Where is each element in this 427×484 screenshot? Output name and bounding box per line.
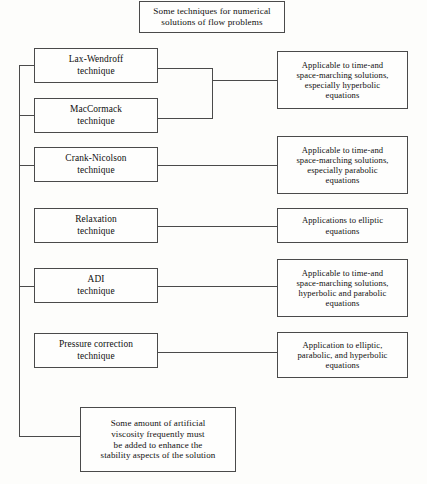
connector-maccormack-out [157,118,213,119]
description-label-elliptic-parabolic-hyperbolic: Application to elliptic, parabolic, and … [294,340,390,370]
description-label-hyperbolic: Applicable to time-and space-marching so… [293,60,391,101]
technique-box-maccormack: MacCormack technique [34,98,158,133]
description-label-parabolic: Applicable to time-and space-marching so… [293,145,391,186]
connector-relaxation-to-desc-3 [157,226,278,227]
description-box-hyperbolic: Applicable to time-and space-marching so… [277,51,408,109]
flow-chart-canvas: Some techniques for numerical solutions … [0,0,427,484]
technique-label-maccormack: MacCormack technique [67,104,125,126]
technique-label-crank-nicolson: Crank-Nicolson technique [62,153,129,175]
connector-merge-vertical [212,68,213,119]
trunk-stub-crank-nicolson [19,165,35,166]
technique-box-crank-nicolson: Crank-Nicolson technique [34,147,158,182]
connector-merge-to-desc-1 [212,80,278,81]
connector-crank-nicolson-to-desc-2 [157,165,278,166]
connector-pressure-correction-to-desc-5 [157,352,278,353]
trunk-vertical-line [19,65,20,437]
technique-box-relaxation: Relaxation technique [34,208,158,243]
trunk-stub-maccormack [19,115,35,116]
note-box-label: Some amount of artificial viscosity freq… [98,418,219,460]
description-box-hyperbolic-parabolic: Applicable to time-and space-marching so… [277,259,408,317]
title-box-label: Some techniques for numerical solutions … [150,6,273,28]
technique-label-pressure-correction: Pressure correction technique [56,339,136,361]
description-box-elliptic-parabolic-hyperbolic: Application to elliptic, parabolic, and … [277,332,408,378]
connector-lax-wendroff-out [157,68,213,69]
technique-box-adi: ADI technique [34,268,158,303]
description-box-elliptic: Applications to elliptic equations [277,208,408,243]
description-box-parabolic: Applicable to time-and space-marching so… [277,136,408,194]
trunk-stub-adi [19,286,35,287]
description-label-elliptic: Applications to elliptic equations [299,215,386,235]
technique-label-lax-wendroff: Lax-Wendroff technique [66,54,126,76]
note-box-artificial-viscosity: Some amount of artificial viscosity freq… [80,407,236,472]
technique-label-adi: ADI technique [74,274,117,296]
description-label-hyperbolic-parabolic: Applicable to time-and space-marching so… [293,268,391,309]
title-box: Some techniques for numerical solutions … [139,1,285,33]
technique-box-pressure-correction: Pressure correction technique [34,333,158,368]
trunk-stub-lax-wendroff [19,65,35,66]
trunk-stub-note-box [19,436,81,437]
technique-box-lax-wendroff: Lax-Wendroff technique [34,48,158,83]
technique-label-relaxation: Relaxation technique [72,214,120,236]
connector-adi-to-desc-4 [157,286,278,287]
